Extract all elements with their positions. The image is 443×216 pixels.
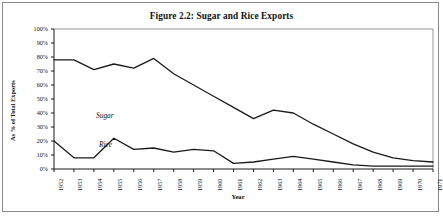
figure-frame: Figure 2.2: Sugar and Rice Exports 100%9…	[2, 2, 439, 212]
y-axis-tick-label: 90%	[22, 39, 48, 46]
y-axis-tick-label: 50%	[22, 95, 48, 102]
chart-plot-area: 100%90%80%70%60%50%40%30%20%10%0% 195219…	[3, 3, 440, 213]
y-axis-tick-label: 10%	[22, 151, 48, 158]
y-axis-tick-label: 60%	[22, 81, 48, 88]
series-label-rice: Rice	[99, 140, 112, 149]
x-axis-tick-label: 1967	[356, 179, 363, 191]
x-axis-tick-label: 1959	[196, 179, 203, 191]
x-axis-tick-label: 1954	[96, 179, 103, 191]
x-axis-tick-label: 1964	[296, 179, 303, 191]
y-axis-tick-label: 40%	[22, 109, 48, 116]
x-axis-tick-label: 1960	[216, 179, 223, 191]
y-axis-tick-label: 70%	[22, 67, 48, 74]
x-axis-tick-label: 1965	[316, 179, 323, 191]
x-axis-tick-label: 1962	[256, 179, 263, 191]
x-axis-title: Year	[218, 193, 258, 200]
x-axis-tick-label: 1966	[336, 179, 343, 191]
y-axis-title: As % of Total Exports	[9, 80, 16, 141]
x-axis-tick-label: 1955	[116, 179, 123, 191]
x-axis-tick-label: 1958	[176, 179, 183, 191]
series-label-sugar: Sugar	[96, 111, 114, 120]
x-axis-tick-label: 1953	[76, 179, 83, 191]
x-axis-tick-label: 1956	[136, 179, 143, 191]
x-axis-tick-label: 1961	[236, 179, 243, 191]
x-axis-tick-label: 1963	[276, 179, 283, 191]
y-axis-tick-label: 30%	[22, 123, 48, 130]
x-axis-tick-label: 1970	[416, 179, 423, 191]
x-axis-tick-label: 1968	[376, 179, 383, 191]
y-axis-tick-label: 100%	[22, 25, 48, 32]
x-axis-tick-label: 1971	[436, 179, 443, 191]
y-axis-tick-label: 20%	[22, 137, 48, 144]
x-axis-tick-label: 1969	[396, 179, 403, 191]
y-axis-tick-label: 80%	[22, 53, 48, 60]
y-axis-tick-label: 0%	[22, 165, 48, 172]
x-axis-tick-label: 1952	[57, 179, 64, 191]
x-axis-tick-label: 1957	[156, 179, 163, 191]
